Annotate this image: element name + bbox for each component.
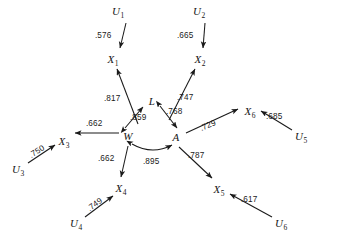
edge-coefficient-W-X3: .662 [86,120,102,128]
node-U4: U4 [70,218,82,229]
node-U1: U1 [112,6,124,17]
node-subscript-X6: 6 [252,110,256,119]
node-base-U2: U [193,5,201,17]
edge-coefficient-A-X2: .747 [177,94,193,102]
node-X3: X3 [59,136,70,147]
node-U3: U3 [12,164,24,175]
node-base-X2: X [195,53,202,65]
edge-W-X4 [121,146,128,177]
node-subscript-U5: 5 [303,135,307,144]
node-base-U4: U [70,217,78,229]
node-A: A [173,132,180,143]
node-subscript-U3: 3 [20,168,24,177]
node-subscript-U6: 6 [283,222,287,231]
node-base-U6: U [275,217,283,229]
edge-coefficient-U5-X6: .685 [266,113,282,121]
node-X2: X2 [195,54,206,65]
node-subscript-X5: 5 [221,188,225,197]
node-base-W: W [123,130,132,142]
node-L: L [149,96,155,107]
edge-coefficient-W-L: .859 [130,114,146,122]
node-W: W [123,131,132,142]
edge-coefficient-W-X4: .662 [98,155,114,163]
node-subscript-X4: 4 [123,187,127,196]
node-base-U3: U [12,163,20,175]
node-base-X5: X [214,183,221,195]
edge-coefficient-U1-X1: .576 [95,32,111,40]
node-U2: U2 [193,6,205,17]
node-base-A: A [173,131,180,143]
path-diagram: U1U2X1X2LWAX3U3X6U5X4U4X5U6 .576.665.817… [0,0,344,242]
node-base-X6: X [245,105,252,117]
node-base-X1: X [108,53,115,65]
node-U5: U5 [295,131,307,142]
node-base-U1: U [112,5,120,17]
node-subscript-X3: 3 [66,140,70,149]
node-subscript-X1: 1 [115,58,119,67]
node-subscript-U2: 2 [201,10,205,19]
node-base-L: L [149,95,155,107]
node-X4: X4 [116,183,127,194]
node-X1: X1 [108,54,119,65]
edge-coefficient-U2-X2: .665 [177,32,193,40]
path-edges-layer [0,0,344,242]
edge-coefficient-A-X5: .787 [188,152,204,160]
edge-coefficient-L-A: .768 [166,108,182,116]
node-U6: U6 [275,218,287,229]
node-subscript-X2: 2 [202,58,206,67]
edge-coefficient-U6-X5: .617 [241,196,257,204]
node-base-U5: U [295,130,303,142]
edge-coefficient-W-X1: .817 [104,95,120,103]
node-X6: X6 [245,106,256,117]
node-base-X4: X [116,182,123,194]
edge-U1-X1 [120,23,126,48]
node-subscript-U1: 1 [120,10,124,19]
edge-coefficient-W-A: .895 [143,158,159,166]
node-X5: X5 [214,184,225,195]
edge-U2-X2 [203,23,205,48]
node-base-X3: X [59,135,66,147]
edge-W-A [132,144,172,150]
node-subscript-U4: 4 [78,222,82,231]
